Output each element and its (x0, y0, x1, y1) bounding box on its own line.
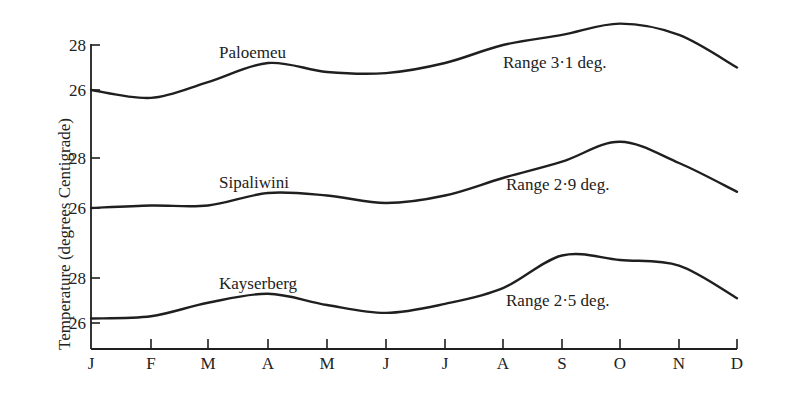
kayserberg-line (91, 254, 737, 319)
y-tick-label: 28 (69, 36, 86, 55)
station-label-sipaliwini: Sipaliwini (219, 173, 289, 192)
sipaliwini-line (91, 142, 737, 208)
month-label: F (146, 354, 155, 373)
month-label: S (557, 354, 566, 373)
month-label: A (497, 354, 510, 373)
month-label: J (383, 354, 390, 373)
month-label: N (673, 354, 685, 373)
month-label: A (262, 354, 275, 373)
temperature-chart: 282628262826 JFMAMJJASOND Temperature (d… (0, 0, 785, 394)
range-annotation-paloemeu: Range 3·1 deg. (503, 53, 606, 72)
y-axis-label: Temperature (degrees Centigrade) (55, 118, 74, 350)
range-annotation-kayserberg: Range 2·5 deg. (506, 291, 609, 310)
month-label: D (731, 354, 743, 373)
station-label-paloemeu: Paloemeu (219, 43, 287, 62)
month-label: J (442, 354, 449, 373)
month-label: M (200, 354, 215, 373)
month-label: M (319, 354, 334, 373)
x-ticks: JFMAMJJASOND (88, 339, 743, 373)
month-label: J (88, 354, 95, 373)
range-annotation-sipaliwini: Range 2·9 deg. (506, 175, 609, 194)
paloemeu-line (91, 24, 737, 98)
month-label: O (614, 354, 626, 373)
station-label-kayserberg: Kayserberg (219, 274, 298, 293)
y-tick-label: 26 (69, 81, 86, 100)
